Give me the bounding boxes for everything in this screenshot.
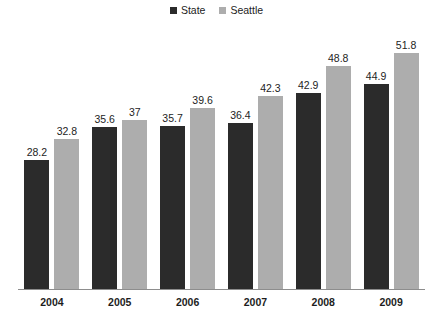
bar-state-2005[interactable]: 35.6 bbox=[92, 20, 117, 289]
bar-state-2007[interactable]: 36.4 bbox=[228, 20, 253, 289]
x-axis-line bbox=[18, 289, 425, 290]
bar-rect[interactable] bbox=[54, 139, 79, 289]
bar-pair: 42.948.8 bbox=[289, 20, 357, 289]
bar-rect[interactable] bbox=[296, 93, 321, 289]
bar-seattle-2005[interactable]: 37 bbox=[122, 20, 147, 289]
bar-value-label: 36.4 bbox=[230, 110, 250, 121]
bar-groups: 28.232.835.63735.739.636.442.342.948.844… bbox=[18, 20, 425, 289]
bar-state-2008[interactable]: 42.9 bbox=[296, 20, 321, 289]
bar-seattle-2004[interactable]: 32.8 bbox=[54, 20, 79, 289]
bar-value-label: 44.9 bbox=[366, 71, 386, 82]
bar-pair: 28.232.8 bbox=[18, 20, 86, 289]
bar-pair: 35.739.6 bbox=[154, 20, 222, 289]
bar-value-label: 48.8 bbox=[328, 53, 348, 64]
bar-state-2006[interactable]: 35.7 bbox=[160, 20, 185, 289]
bar-value-label: 28.2 bbox=[27, 147, 47, 158]
bar-rect[interactable] bbox=[228, 123, 253, 289]
x-axis-label-2005: 2005 bbox=[86, 297, 154, 308]
bar-seattle-2008[interactable]: 48.8 bbox=[326, 20, 351, 289]
bar-value-label: 37 bbox=[129, 107, 141, 118]
x-axis-label-2006: 2006 bbox=[154, 297, 222, 308]
bar-seattle-2007[interactable]: 42.3 bbox=[258, 20, 283, 289]
x-axis-category-labels: 200420052006200720082009 bbox=[18, 297, 425, 308]
bar-group: 35.637 bbox=[86, 20, 154, 289]
bar-pair: 35.637 bbox=[86, 20, 154, 289]
bar-value-label: 42.3 bbox=[260, 83, 280, 94]
bar-state-2009[interactable]: 44.9 bbox=[364, 20, 389, 289]
bar-seattle-2009[interactable]: 51.8 bbox=[394, 20, 419, 289]
bar-rect[interactable] bbox=[160, 126, 185, 289]
bar-pair: 36.442.3 bbox=[221, 20, 289, 289]
bar-rect[interactable] bbox=[394, 53, 419, 289]
bar-rect[interactable] bbox=[364, 84, 389, 289]
bar-rect[interactable] bbox=[92, 127, 117, 289]
bar-group: 35.739.6 bbox=[154, 20, 222, 289]
bar-value-label: 42.9 bbox=[298, 80, 318, 91]
x-axis-label-2009: 2009 bbox=[357, 297, 425, 308]
bar-state-2004[interactable]: 28.2 bbox=[24, 20, 49, 289]
bar-rect[interactable] bbox=[190, 108, 215, 289]
bar-value-label: 51.8 bbox=[396, 40, 416, 51]
bar-group: 42.948.8 bbox=[289, 20, 357, 289]
bar-value-label: 35.7 bbox=[162, 113, 182, 124]
bar-group: 28.232.8 bbox=[18, 20, 86, 289]
x-axis-label-2007: 2007 bbox=[221, 297, 289, 308]
bar-rect[interactable] bbox=[258, 96, 283, 289]
bar-group: 36.442.3 bbox=[221, 20, 289, 289]
bar-seattle-2006[interactable]: 39.6 bbox=[190, 20, 215, 289]
bar-value-label: 35.6 bbox=[95, 114, 115, 125]
plot-area: 28.232.835.63735.739.636.442.342.948.844… bbox=[0, 0, 433, 327]
bar-group: 44.951.8 bbox=[357, 20, 425, 289]
bar-chart: State Seattle 28.232.835.63735.739.636.4… bbox=[0, 0, 433, 327]
bar-rect[interactable] bbox=[24, 160, 49, 289]
bar-rect[interactable] bbox=[122, 120, 147, 289]
bar-value-label: 32.8 bbox=[57, 126, 77, 137]
bar-rect[interactable] bbox=[326, 66, 351, 289]
x-axis-label-2004: 2004 bbox=[18, 297, 86, 308]
bar-value-label: 39.6 bbox=[192, 95, 212, 106]
x-axis-label-2008: 2008 bbox=[289, 297, 357, 308]
bar-pair: 44.951.8 bbox=[357, 20, 425, 289]
